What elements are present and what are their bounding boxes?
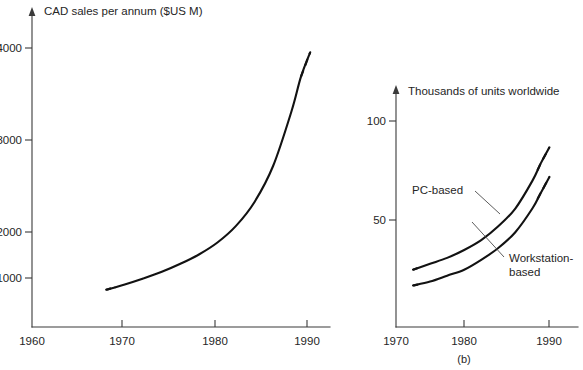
left-ytick-label-3000: 3000 <box>0 134 22 146</box>
figure-container: CAD sales per annum ($US M) 4000 3000 20… <box>0 0 583 370</box>
panel-b-caption: (b) <box>457 353 470 365</box>
right-y-ticks <box>389 121 396 220</box>
right-y-axis-arrowhead <box>393 85 400 94</box>
left-y-axis-arrowhead <box>29 7 36 16</box>
right-ytick-label-50: 50 <box>373 214 386 226</box>
charts-svg: CAD sales per annum ($US M) 4000 3000 20… <box>0 0 583 370</box>
workstation-based-series-label-line1: Workstation- <box>509 252 574 264</box>
left-chart-title: CAD sales per annum ($US M) <box>44 5 203 17</box>
workstation-based-series-label-line2: based <box>509 266 540 278</box>
pc-based-series-label: PC-based <box>412 184 463 196</box>
left-x-ticks <box>122 320 307 327</box>
cad-sales-curve <box>106 52 310 289</box>
right-xtick-label-1980: 1980 <box>451 335 477 347</box>
right-chart-title: Thousands of units worldwide <box>408 85 560 97</box>
left-xtick-label-1980: 1980 <box>202 335 228 347</box>
left-xtick-label-1990: 1990 <box>294 335 320 347</box>
chart-panel-units-worldwide: Thousands of units worldwide 100 50 1970… <box>367 85 578 365</box>
chart-panel-cad-sales: CAD sales per annum ($US M) 4000 3000 20… <box>0 5 330 347</box>
left-ytick-label-1000: 1000 <box>0 272 22 284</box>
left-ytick-label-4000: 4000 <box>0 42 22 54</box>
left-xtick-label-1960: 1960 <box>19 335 45 347</box>
right-x-ticks <box>464 320 549 327</box>
left-ytick-label-2000: 2000 <box>0 226 22 238</box>
right-ytick-label-100: 100 <box>367 115 386 127</box>
pc-based-leader-line <box>475 191 500 214</box>
right-xtick-label-1970: 1970 <box>383 335 409 347</box>
right-xtick-label-1990: 1990 <box>536 335 562 347</box>
left-y-ticks <box>25 48 32 278</box>
workstation-based-leader-line <box>472 222 504 257</box>
left-xtick-label-1970: 1970 <box>109 335 135 347</box>
